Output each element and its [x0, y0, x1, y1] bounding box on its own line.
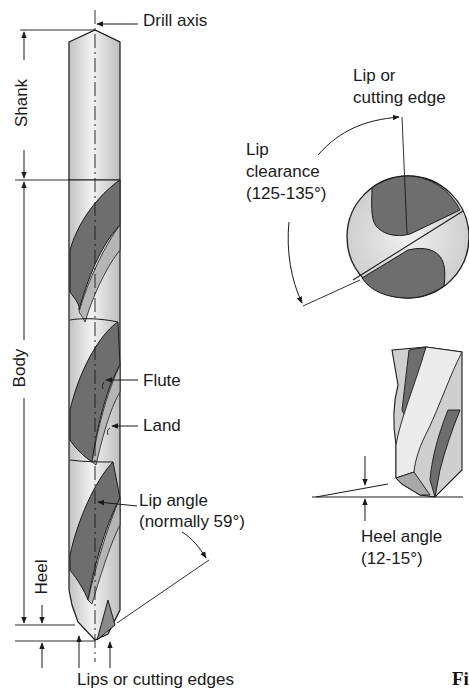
label-flute: Flute [143, 371, 181, 391]
label-shank: Shank [12, 76, 32, 130]
label-lip-angle-value: (normally 59°) [139, 512, 245, 532]
label-body: Body [10, 346, 30, 391]
figure-caption: Fi [452, 668, 469, 690]
label-heel-angle-value: (12-15°) [361, 549, 423, 569]
label-land: Land [143, 416, 181, 436]
drill-end-view [288, 117, 469, 306]
label-heel: Heel [32, 557, 52, 598]
label-drill-axis: Drill axis [143, 11, 207, 31]
label-lips: Lips or cutting edges [77, 670, 234, 690]
label-lip-edge-1: Lip or [353, 66, 396, 86]
label-lip-clearance-2: clearance [246, 162, 320, 182]
label-lip-clearance-3: (125-135°) [246, 184, 327, 204]
label-lip-edge-2: cutting edge [353, 88, 446, 108]
label-lip-clearance-1: Lip [246, 140, 269, 160]
drill-heel-view [312, 347, 463, 521]
label-lip-angle: Lip angle [139, 491, 208, 511]
drill-shank [69, 30, 120, 180]
label-heel-angle: Heel angle [361, 527, 442, 547]
